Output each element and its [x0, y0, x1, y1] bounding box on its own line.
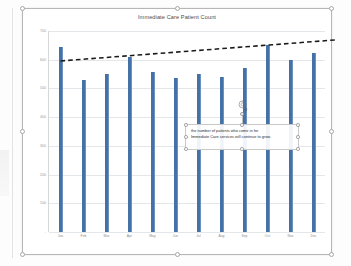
- page-left-rule: [12, 8, 13, 258]
- bar-column: Mar: [95, 31, 118, 232]
- y-axis-tick-label: 600: [40, 58, 46, 62]
- chart-handle-middle-left[interactable]: [20, 129, 25, 134]
- textbox-handle-bottom-center[interactable]: [240, 147, 244, 151]
- chart-handle-top-left[interactable]: [20, 6, 25, 11]
- x-axis-tick-label: Jul: [196, 234, 200, 238]
- textbox-handle-middle-right[interactable]: [296, 135, 300, 139]
- bar[interactable]: [105, 74, 109, 232]
- chart-handle-bottom-right[interactable]: [329, 252, 334, 257]
- y-axis-tick-label: 700: [40, 29, 46, 33]
- rotate-cursor-icon: [236, 99, 249, 112]
- annotation-line-2: Immediate Care services will continue to…: [191, 134, 294, 140]
- y-axis-tick-label: 500: [40, 86, 46, 90]
- x-axis-tick-label: Apr: [127, 234, 132, 238]
- bar-column: Dec: [302, 31, 325, 232]
- textbox-handle-bottom-left[interactable]: [184, 147, 188, 151]
- bar-column: Apr: [118, 31, 141, 232]
- x-axis-tick-label: Sep: [241, 234, 247, 238]
- x-axis-tick-label: Oct: [265, 234, 270, 238]
- left-panel-artifact: [0, 150, 9, 196]
- annotation-textbox[interactable]: the number of patients who come in for I…: [185, 124, 299, 150]
- chart-handle-bottom-center[interactable]: [175, 252, 180, 257]
- bar[interactable]: [174, 78, 178, 232]
- bar[interactable]: [128, 57, 132, 232]
- textbox-handle-top-right[interactable]: [296, 123, 300, 127]
- textbox-handle-middle-left[interactable]: [184, 135, 188, 139]
- x-axis-tick-label: Dec: [310, 234, 316, 238]
- textbox-handle-top-center[interactable]: [240, 123, 244, 127]
- x-axis-tick-label: May: [149, 234, 155, 238]
- bar[interactable]: [59, 47, 63, 232]
- annotation-textbox-text[interactable]: the number of patients who come in for I…: [186, 125, 298, 139]
- y-axis-tick-label: -: [45, 230, 46, 234]
- chart-handle-top-center[interactable]: [175, 6, 180, 11]
- x-axis-tick-label: Nov: [287, 234, 293, 238]
- bar-column: May: [141, 31, 164, 232]
- y-axis-tick-label: 400: [40, 115, 46, 119]
- x-axis-tick-label: Jan: [58, 234, 63, 238]
- chart-handle-top-right[interactable]: [329, 6, 334, 11]
- y-axis-tick-label: 100: [40, 201, 46, 205]
- x-axis-tick-label: Mar: [104, 234, 110, 238]
- bar-column: Feb: [72, 31, 95, 232]
- y-axis-tick-label: 300: [40, 144, 46, 148]
- gridline: [49, 232, 325, 233]
- chart-handle-bottom-left[interactable]: [20, 252, 25, 257]
- x-axis-tick-label: Aug: [218, 234, 224, 238]
- bar[interactable]: [82, 80, 86, 232]
- bar[interactable]: [151, 72, 155, 232]
- x-axis-tick-label: Jun: [173, 234, 178, 238]
- textbox-handle-bottom-right[interactable]: [296, 147, 300, 151]
- chart-handle-middle-right[interactable]: [329, 129, 334, 134]
- bar[interactable]: [220, 77, 224, 232]
- bar-column: Jun: [164, 31, 187, 232]
- chart-title: Immediate Care Patient Count: [23, 14, 331, 20]
- textbox-handle-top-left[interactable]: [184, 123, 188, 127]
- y-axis-tick-label: 200: [40, 173, 46, 177]
- x-axis-tick-label: Feb: [81, 234, 87, 238]
- bar[interactable]: [197, 74, 201, 232]
- bar[interactable]: [312, 53, 316, 232]
- bar-column: Jan: [49, 31, 72, 232]
